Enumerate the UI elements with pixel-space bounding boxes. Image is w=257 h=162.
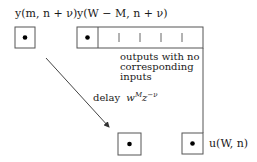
dot-icon (127, 142, 132, 147)
output-array (77, 27, 203, 48)
output-label: u(W, n) (209, 137, 248, 150)
dot-icon (190, 141, 195, 146)
left-box-label: y(m, n + ν) (14, 7, 77, 20)
svg-text:delay wMz−ν: delay wMz−ν (93, 91, 158, 103)
delayed-cell (118, 133, 141, 155)
dot-icon (85, 35, 90, 40)
output-cell (182, 133, 203, 154)
annotation-line-3: inputs (120, 71, 152, 82)
dot-icon (23, 35, 28, 40)
left-cell (15, 27, 35, 48)
annotation: outputs with no corresponding inputs (120, 51, 200, 82)
array-label: y(W − M, n + ν) (76, 7, 168, 20)
delay-line-diagram: y(m, n + ν) y(W − M, n + ν) outputs with… (0, 0, 257, 162)
delay-label: delay wMz−ν (93, 91, 158, 103)
